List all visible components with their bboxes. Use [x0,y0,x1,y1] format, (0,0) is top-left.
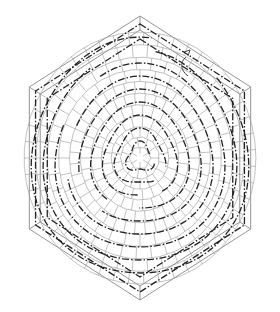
honeycomb-cells [24,32,256,284]
hexagonal-cell-diagram [0,0,280,312]
diagram-canvas [0,0,280,312]
